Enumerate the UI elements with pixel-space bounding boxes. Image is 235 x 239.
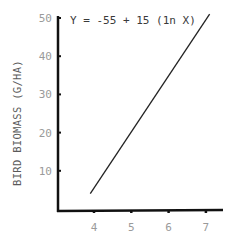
regression-line [90,14,209,194]
y-tick-label: 20 [39,127,52,140]
x-ticks: 4567 [91,210,210,234]
x-tick-label: 5 [128,221,135,234]
y-tick-label: 10 [39,165,52,178]
x-tick-label: 7 [203,221,210,234]
y-tick-label: 40 [39,50,52,63]
y-tick-label: 50 [39,12,52,25]
x-tick-label: 4 [91,221,98,234]
y-axis-label: BIRD BIOMASS (G/HA) [11,60,23,186]
x-tick-label: 6 [165,221,172,234]
regression-equation: Y = -55 + 15 (1n X) [70,14,196,27]
y-tick-label: 30 [39,88,52,101]
bird-biomass-chart: 1020304050 4567 BIRD BIOMASS (G/HA) Y = … [0,0,235,239]
chart-canvas: 1020304050 4567 BIRD BIOMASS (G/HA) Y = … [0,0,235,239]
x-axis [57,210,223,211]
